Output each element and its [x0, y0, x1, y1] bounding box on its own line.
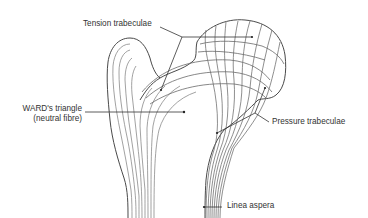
femur-outline [107, 20, 286, 218]
pressure-leader-branch [255, 88, 265, 113]
leader-dots [160, 36, 266, 208]
tension-trabeculae-label: Tension trabeculae [83, 19, 152, 29]
linea-aspera-label: Linea aspera [227, 201, 274, 211]
neutral-fibre-label: (neutral fibre) [0, 114, 82, 124]
pressure-trabeculae-label: Pressure trabeculae [272, 117, 345, 127]
greater-trochanter-outline [107, 38, 160, 218]
wards-triangle-label: WARD's triangle [0, 104, 82, 114]
